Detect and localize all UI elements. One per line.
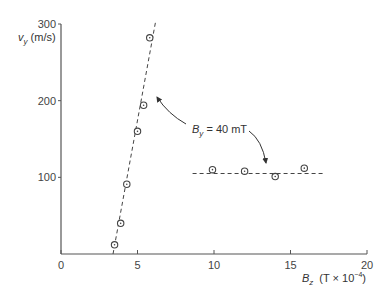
x-tick-label: 20 — [361, 259, 373, 271]
x-tick-label: 0 — [58, 259, 64, 271]
y-axis-label-unit: (m/s) — [28, 31, 56, 43]
annotation-arrow-left — [157, 97, 186, 124]
axes — [61, 24, 367, 254]
scatter-chart: 05101520 100200300 vy (m/s) Bz(T × 10−4)… — [0, 0, 392, 296]
x-tick-label: 5 — [134, 259, 140, 271]
x-axis-label-unit-pre: (T × 10 — [319, 272, 354, 284]
x-axis-label-var: B — [302, 272, 309, 284]
data-point-center — [114, 244, 116, 246]
data-markers — [111, 35, 307, 248]
y-axis-label: vy (m/s) — [18, 31, 56, 46]
x-tick-label: 10 — [208, 259, 220, 271]
fit-lines — [113, 20, 324, 254]
y-tick-label: 100 — [38, 171, 56, 183]
x-axis-label-sub: z — [308, 278, 313, 287]
data-point-center — [143, 104, 145, 106]
data-point-center — [244, 170, 246, 172]
data-point-center — [212, 169, 214, 171]
annotation-var: B — [192, 123, 199, 135]
x-axis-label-unit-post: ) — [362, 272, 366, 284]
data-point-center — [137, 131, 139, 133]
x-tick-label: 15 — [284, 259, 296, 271]
data-point-center — [149, 37, 151, 39]
data-point-center — [274, 176, 276, 178]
annotation-arrow-right — [249, 131, 266, 163]
x-axis-label-unit-exp: −4 — [354, 271, 362, 278]
data-point-center — [120, 223, 122, 225]
y-tick-label: 300 — [38, 18, 56, 30]
fit-line-steep — [113, 20, 156, 254]
x-axis-label: Bz(T × 10−4) — [302, 271, 366, 287]
annotation: By = 40 mT — [157, 97, 266, 163]
annotation-text: By = 40 mT — [192, 123, 247, 138]
y-tick-label: 200 — [38, 95, 56, 107]
data-point-center — [303, 167, 305, 169]
data-point-center — [126, 183, 128, 185]
annotation-rest: = 40 mT — [203, 123, 247, 135]
x-axis-ticks: 05101520 — [58, 250, 373, 271]
